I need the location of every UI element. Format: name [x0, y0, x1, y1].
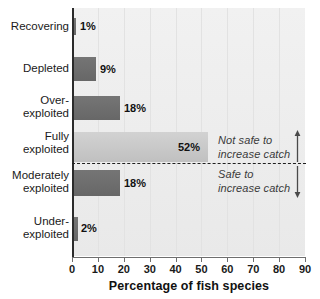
- xtick-mark-20: [124, 257, 125, 262]
- xtick-label-90: 90: [293, 263, 317, 275]
- category-label-over-exploited: Over- exploited: [23, 94, 69, 120]
- annotation-safe: Safe to increase catch: [218, 167, 290, 195]
- annotation-not-safe: Not safe to increase catch: [218, 133, 290, 161]
- arrow-up-icon: [292, 130, 303, 162]
- bar-value-over-exploited: 18%: [124, 102, 146, 114]
- x-axis-title: Percentage of fish species: [72, 279, 306, 293]
- bar-value-under-exploited: 2%: [81, 222, 97, 234]
- x-axis-line: [72, 257, 306, 258]
- xtick-label-70: 70: [241, 263, 265, 275]
- y-axis-line: [72, 8, 74, 258]
- xtick-label-80: 80: [267, 263, 291, 275]
- bar-value-moderately-exploited: 18%: [124, 177, 146, 189]
- bar-moderately-exploited: [73, 170, 120, 196]
- category-label-fully-exploited: Fully exploited: [23, 130, 69, 156]
- category-label-recovering: Recovering: [11, 20, 69, 33]
- category-label-depleted: Depleted: [23, 62, 69, 75]
- xtick-mark-0: [72, 257, 73, 262]
- xtick-mark-60: [227, 257, 228, 262]
- bar-depleted: [73, 57, 96, 81]
- xtick-mark-70: [253, 257, 254, 262]
- xtick-mark-90: [305, 257, 306, 262]
- xtick-mark-40: [176, 257, 177, 262]
- xtick-mark-30: [150, 257, 151, 262]
- bar-value-fully-exploited: 52%: [178, 141, 200, 153]
- category-label-moderately-exploited: Moderately exploited: [12, 169, 69, 195]
- bar-value-depleted: 9%: [100, 63, 116, 75]
- bar-value-recovering: 1%: [80, 20, 96, 32]
- xtick-label-30: 30: [138, 263, 162, 275]
- bar-chart: 1% 9% 18% 52% 18% 2% Recovering Depleted…: [0, 0, 320, 299]
- xtick-mark-50: [201, 257, 202, 262]
- category-label-under-exploited: Under- exploited: [23, 215, 69, 241]
- gridline-70: [253, 8, 254, 256]
- xtick-label-10: 10: [86, 263, 110, 275]
- xtick-label-0: 0: [60, 263, 84, 275]
- gridline-80: [279, 8, 280, 256]
- bar-over-exploited: [73, 96, 120, 120]
- safety-divider-line: [72, 163, 306, 164]
- xtick-label-60: 60: [215, 263, 239, 275]
- bar-under-exploited: [73, 217, 78, 241]
- gridline-60: [227, 8, 228, 256]
- arrow-down-icon: [292, 166, 303, 198]
- xtick-label-50: 50: [189, 263, 213, 275]
- xtick-mark-80: [279, 257, 280, 262]
- xtick-label-20: 20: [112, 263, 136, 275]
- xtick-label-40: 40: [164, 263, 188, 275]
- xtick-mark-10: [98, 257, 99, 262]
